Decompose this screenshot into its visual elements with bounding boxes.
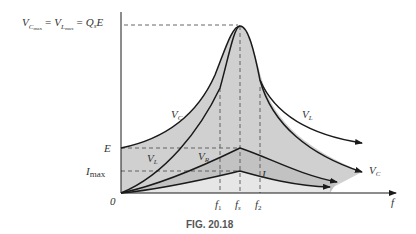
origin-label: 0 bbox=[110, 195, 116, 207]
y-label-e: E bbox=[103, 142, 111, 154]
x-label-fs: fs bbox=[235, 198, 241, 212]
x-label-f1: f1 bbox=[215, 198, 222, 212]
svg-text:VCmax=VLmax=QsE: VCmax=VLmax=QsE bbox=[22, 16, 103, 31]
x-label-f2: f2 bbox=[255, 198, 262, 212]
x-axis-label: f bbox=[391, 196, 396, 208]
label-vl-right: VL bbox=[302, 108, 313, 122]
label-vc-left: VC bbox=[171, 108, 183, 122]
label-vc-right: VC bbox=[369, 164, 381, 178]
y-label-imax: Imax bbox=[85, 165, 106, 179]
max-voltage-equation: VCmax=VLmax=QsE bbox=[22, 16, 103, 31]
resonance-curves-figure: VCmax=VLmax=QsE E Imax 0 f1 fs f2 f VC V… bbox=[0, 0, 416, 234]
figure-caption: FIG. 20.18 bbox=[186, 219, 234, 230]
